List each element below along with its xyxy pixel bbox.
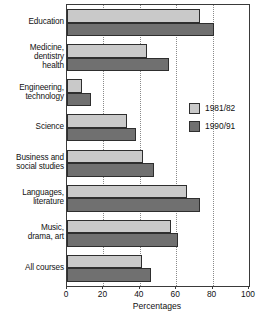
category-label-line: Education bbox=[0, 17, 64, 26]
bar bbox=[67, 93, 91, 107]
bar bbox=[67, 163, 154, 177]
bar bbox=[67, 185, 187, 199]
bar bbox=[67, 44, 147, 58]
category-label: Business andsocial studies bbox=[0, 153, 64, 172]
category-label-line: drama, art bbox=[0, 232, 64, 241]
category-label-line: health bbox=[0, 61, 64, 70]
category-label-line: Business and bbox=[0, 153, 64, 162]
tick-label: 20 bbox=[87, 289, 117, 299]
category-label-line: Music, bbox=[0, 223, 64, 232]
category-label: Education bbox=[0, 17, 64, 26]
bars-layer bbox=[67, 5, 249, 286]
tick-label: 40 bbox=[124, 289, 154, 299]
bar bbox=[67, 128, 136, 142]
category-label-line: Languages, bbox=[0, 188, 64, 197]
bar bbox=[67, 23, 214, 37]
tick-label: 100 bbox=[233, 289, 263, 299]
category-label: Engineering,technology bbox=[0, 83, 64, 102]
legend-swatch bbox=[189, 121, 200, 132]
category-label-line: technology bbox=[0, 92, 64, 101]
category-label: Languages,literature bbox=[0, 188, 64, 207]
legend: 1981/821990/91 bbox=[189, 101, 245, 137]
bar bbox=[67, 198, 200, 212]
category-label-line: Medicine, bbox=[0, 43, 64, 52]
tick-label: 60 bbox=[160, 289, 190, 299]
bar bbox=[67, 9, 200, 23]
tick-label: 80 bbox=[197, 289, 227, 299]
bar-chart: EducationMedicine,dentistryhealthEnginee… bbox=[0, 0, 264, 323]
legend-item: 1990/91 bbox=[189, 119, 245, 134]
legend-label: 1981/82 bbox=[205, 104, 235, 113]
category-label-line: All courses bbox=[0, 263, 64, 272]
category-label: All courses bbox=[0, 263, 64, 272]
bar bbox=[67, 268, 151, 282]
plot-area bbox=[66, 4, 250, 287]
category-label: Music,drama, art bbox=[0, 223, 64, 242]
bar bbox=[67, 150, 143, 164]
bar bbox=[67, 220, 171, 234]
x-axis-title: Percentages bbox=[66, 301, 248, 311]
bar bbox=[67, 79, 82, 93]
bar bbox=[67, 114, 127, 128]
category-label-line: dentistry bbox=[0, 52, 64, 61]
bar bbox=[67, 58, 169, 72]
legend-label: 1990/91 bbox=[205, 122, 235, 131]
bar bbox=[67, 255, 142, 269]
category-label-line: Engineering, bbox=[0, 83, 64, 92]
legend-item: 1981/82 bbox=[189, 101, 245, 116]
category-label: Science bbox=[0, 122, 64, 131]
category-axis-labels: EducationMedicine,dentistryhealthEnginee… bbox=[0, 4, 64, 285]
tick-label: 0 bbox=[51, 289, 81, 299]
category-label: Medicine,dentistryhealth bbox=[0, 43, 64, 71]
legend-swatch bbox=[189, 103, 200, 114]
x-axis-ticks: 020406080100 bbox=[66, 286, 248, 298]
bar bbox=[67, 233, 178, 247]
category-label-line: Science bbox=[0, 122, 64, 131]
category-label-line: social studies bbox=[0, 162, 64, 171]
category-label-line: literature bbox=[0, 197, 64, 206]
